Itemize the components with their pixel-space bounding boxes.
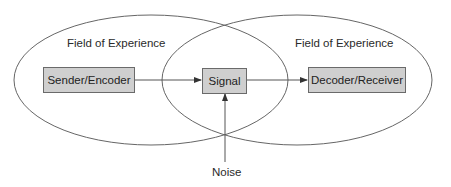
sender-encoder-label: Sender/Encoder [47,74,130,86]
left-field-label: Field of Experience [67,37,165,49]
decoder-receiver-label: Decoder/Receiver [311,74,403,86]
decoder-receiver-box: Decoder/Receiver [308,67,406,93]
signal-label: Signal [209,75,241,87]
right-field-label: Field of Experience [295,37,393,49]
noise-label: Noise [212,166,241,178]
signal-box: Signal [202,68,247,94]
sender-encoder-box: Sender/Encoder [43,67,135,93]
